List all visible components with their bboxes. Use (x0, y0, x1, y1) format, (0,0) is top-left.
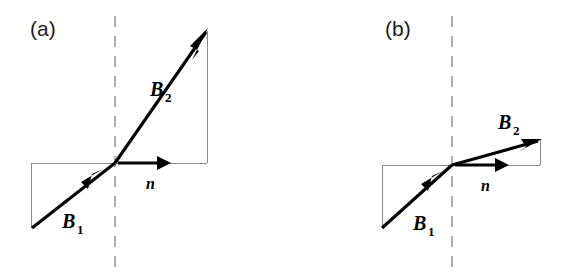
vector-b1-b-subscript: 1 (428, 224, 435, 239)
vector-normal-b-label: n (481, 177, 490, 194)
vector-b1-a-label: B (61, 210, 75, 232)
vector-normal-b (455, 158, 509, 172)
figure-root: (a) B 1 B 2 n (0, 0, 570, 276)
vector-b2-a-arrowhead (190, 28, 208, 60)
vector-b2-b-label: B (497, 111, 511, 133)
panel-b-tag: (b) (385, 17, 411, 40)
vector-b1-b-label: B (412, 212, 426, 234)
vector-diagram-canvas: (a) B 1 B 2 n (0, 0, 570, 276)
vector-b2-a-subscript: 2 (165, 90, 172, 105)
panel-b-construction-lines (382, 140, 540, 228)
vector-b2-b-label-group: B 2 (497, 111, 520, 138)
vector-normal-a-arrowhead (157, 156, 171, 170)
vector-b2-a-label-group: B 2 (149, 78, 172, 105)
vector-normal-a-label: n (146, 175, 155, 192)
vector-b2-a-label: B (149, 78, 163, 100)
panel-a-construction-lines (31, 31, 207, 228)
vector-b2-b-subscript: 2 (513, 123, 520, 138)
vector-normal-a (118, 156, 171, 170)
vector-b1-a-label-group: B 1 (61, 210, 84, 237)
vector-normal-b-arrowhead (495, 158, 509, 172)
panel-b: (b) B 1 B 2 n (382, 16, 542, 268)
vector-b1-b-label-group: B 1 (412, 212, 435, 239)
vector-b1-a-subscript: 1 (77, 222, 84, 237)
panel-a-tag: (a) (30, 17, 56, 40)
panel-a: (a) B 1 B 2 n (30, 16, 208, 268)
